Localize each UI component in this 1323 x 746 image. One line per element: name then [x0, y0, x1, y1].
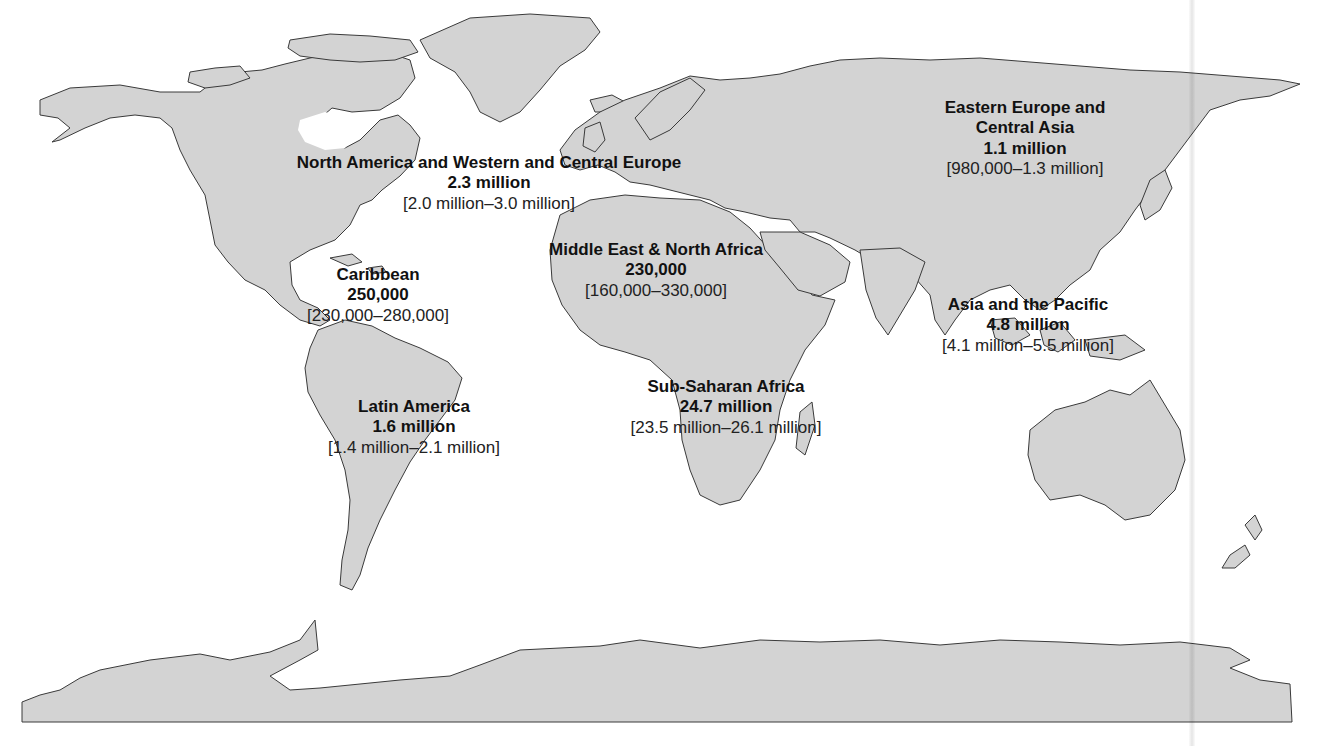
region-label-sub-saharan-africa: Sub-Saharan Africa 24.7 million [23.5 mi… [631, 377, 822, 438]
region-name: North America and Western and Central Eu… [297, 153, 681, 173]
region-name: Middle East & North Africa [549, 240, 763, 260]
region-value: 250,000 [307, 285, 449, 305]
region-range: [2.0 million–3.0 million] [297, 194, 681, 214]
region-value: 4.8 million [942, 315, 1114, 335]
region-label-north-america-western-central-europe: North America and Western and Central Eu… [297, 153, 681, 214]
region-name: Latin America [328, 397, 500, 417]
region-label-latin-america: Latin America 1.6 million [1.4 million–2… [328, 397, 500, 458]
region-range: [160,000–330,000] [549, 281, 763, 301]
region-value: 1.1 million [945, 139, 1106, 159]
page-fold-shadow [1189, 0, 1195, 746]
indian-subcontinent [860, 248, 925, 335]
world-map [0, 0, 1323, 746]
region-value: 1.6 million [328, 417, 500, 437]
continent-greenland [420, 14, 600, 122]
region-name: Asia and the Pacific [942, 295, 1114, 315]
region-name: Caribbean [307, 265, 449, 285]
region-range: [230,000–280,000] [307, 306, 449, 326]
region-range: [1.4 million–2.1 million] [328, 438, 500, 458]
region-range: [23.5 million–26.1 million] [631, 418, 822, 438]
region-label-middle-east-north-africa: Middle East & North Africa 230,000 [160,… [549, 240, 763, 301]
arctic-islands-2 [288, 34, 418, 62]
region-range: [4.1 million–5.5 million] [942, 336, 1114, 356]
continent-antarctica [22, 620, 1292, 722]
region-value: 230,000 [549, 260, 763, 280]
region-name: Sub-Saharan Africa [631, 377, 822, 397]
region-label-caribbean: Caribbean 250,000 [230,000–280,000] [307, 265, 449, 326]
region-label-eastern-europe-central-asia: Eastern Europe and Central Asia 1.1 mill… [945, 98, 1106, 180]
region-name-line2: Central Asia [945, 118, 1106, 138]
region-value: 2.3 million [297, 173, 681, 193]
continent-australia [1028, 380, 1185, 520]
region-label-asia-pacific: Asia and the Pacific 4.8 million [4.1 mi… [942, 295, 1114, 356]
new-zealand [1222, 515, 1262, 568]
region-range: [980,000–1.3 million] [945, 159, 1106, 179]
region-value: 24.7 million [631, 397, 822, 417]
region-name: Eastern Europe and [945, 98, 1106, 118]
